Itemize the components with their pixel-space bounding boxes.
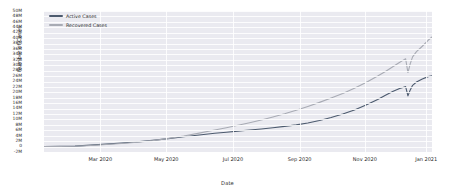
gridline-horizontal <box>44 38 432 39</box>
gridline-horizontal <box>44 60 432 61</box>
x-axis-tick-label: Sep 2020 <box>270 156 330 162</box>
gridline-horizontal <box>44 147 432 148</box>
x-axis-tick-label: Mar 2020 <box>70 156 130 162</box>
gridline-vertical <box>300 11 301 152</box>
gridline-horizontal <box>44 152 432 153</box>
legend-swatch-icon <box>49 15 63 16</box>
x-axis-title: Date <box>0 180 455 186</box>
legend-swatch-icon <box>49 24 63 25</box>
gridline-horizontal <box>44 54 432 55</box>
plot-area <box>44 11 432 152</box>
y-axis-tick-label: 48M <box>0 14 22 18</box>
gridline-horizontal <box>44 98 432 99</box>
chart-legend: Active CasesRecovered Cases <box>49 13 107 28</box>
gridline-horizontal <box>44 141 432 142</box>
legend-item[interactable]: Active Cases <box>49 13 107 19</box>
gridline-horizontal <box>44 76 432 77</box>
gridline-horizontal <box>44 49 432 50</box>
gridline-horizontal <box>44 103 432 104</box>
gridline-vertical <box>100 11 101 152</box>
gridline-horizontal <box>44 125 432 126</box>
chart-figure: Number of Cases Date 50M48M46M44M42M40M3… <box>0 0 455 196</box>
gridline-vertical <box>233 11 234 152</box>
legend-item[interactable]: Recovered Cases <box>49 22 107 28</box>
gridline-horizontal <box>44 136 432 137</box>
gridline-horizontal <box>44 87 432 88</box>
y-axis-tick-label: 20M <box>0 90 22 94</box>
gridline-horizontal <box>44 114 432 115</box>
gridline-horizontal <box>44 11 432 12</box>
x-axis-tick-label: Nov 2020 <box>335 156 395 162</box>
gridline-vertical <box>365 11 366 152</box>
y-axis-tick-label: 34M <box>0 52 22 56</box>
gridline-horizontal <box>44 71 432 72</box>
gridlines <box>44 11 432 152</box>
gridline-horizontal <box>44 119 432 120</box>
gridline-horizontal <box>44 109 432 110</box>
gridline-horizontal <box>44 44 432 45</box>
gridline-vertical <box>426 11 427 152</box>
y-axis-tick-label: 10M <box>0 117 22 121</box>
gridline-horizontal <box>44 130 432 131</box>
legend-label: Active Cases <box>66 14 97 19</box>
x-axis-tick-label: May 2020 <box>136 156 196 162</box>
x-axis-tick-label: Jan 2021 <box>396 156 455 162</box>
gridline-vertical <box>166 11 167 152</box>
y-axis-tick-label: -2M <box>0 150 22 154</box>
y-axis-tick-label: 6M <box>0 128 22 132</box>
gridline-horizontal <box>44 65 432 66</box>
gridline-horizontal <box>44 33 432 34</box>
legend-label: Recovered Cases <box>66 23 107 28</box>
x-axis-tick-label: Jul 2020 <box>203 156 263 162</box>
gridline-horizontal <box>44 92 432 93</box>
gridline-horizontal <box>44 82 432 83</box>
